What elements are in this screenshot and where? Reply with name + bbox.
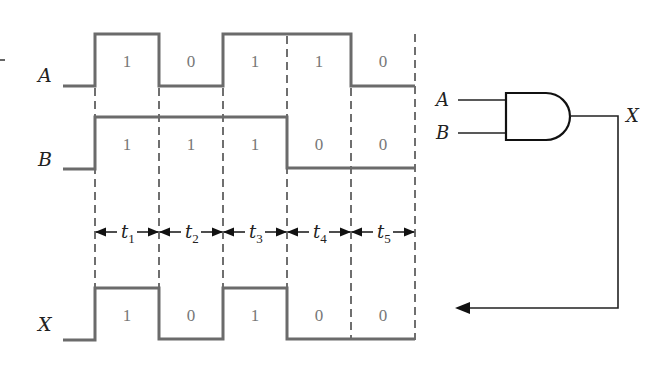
bit-value: 0 (379, 306, 388, 325)
and-gate-body (506, 93, 570, 140)
timing-diagram: A B X 1 0 1 1 0 1 1 1 0 0 1 0 1 0 0 (0, 0, 669, 365)
interval-label-t3: t3 (249, 221, 263, 246)
gate-input-label-a: A (434, 89, 449, 110)
waveform-a (63, 34, 415, 86)
interval-boundaries (95, 34, 415, 340)
bit-value: 1 (187, 135, 196, 154)
signal-label-a: A (36, 64, 52, 86)
waveform-b (63, 117, 415, 169)
gate-input-label-b: B (435, 122, 449, 143)
bits-b: 1 1 1 0 0 (123, 135, 388, 154)
interval-label-t1: t1 (121, 221, 135, 246)
gate-output-label-x: X (624, 105, 640, 126)
signal-label-b: B (37, 148, 52, 170)
bit-value: 0 (315, 306, 324, 325)
bit-value: 1 (251, 135, 260, 154)
signal-label-x: X (36, 313, 53, 335)
output-wire (462, 116, 618, 308)
bit-value: 1 (123, 306, 132, 325)
bit-value: 1 (251, 306, 260, 325)
bit-value: 1 (123, 135, 132, 154)
interval-label-t4: t4 (313, 221, 327, 246)
interval-labels: t1 t2 t3 t4 t5 (121, 221, 391, 246)
and-gate: A B X (434, 89, 640, 314)
bit-value: 1 (123, 52, 132, 71)
bit-value: 0 (187, 306, 196, 325)
bit-value: 0 (187, 52, 196, 71)
waveform-x (63, 288, 415, 340)
arrow-left-icon (455, 302, 470, 314)
interval-label-t2: t2 (185, 221, 199, 246)
bits-a: 1 0 1 1 0 (123, 52, 388, 71)
bit-value: 0 (379, 52, 388, 71)
interval-label-t5: t5 (377, 221, 391, 246)
bit-value: 0 (379, 135, 388, 154)
bit-value: 1 (315, 52, 324, 71)
bit-value: 0 (315, 135, 324, 154)
bits-x: 1 0 1 0 0 (123, 306, 388, 325)
bit-value: 1 (251, 52, 260, 71)
